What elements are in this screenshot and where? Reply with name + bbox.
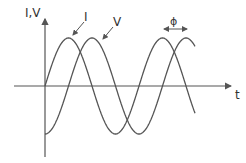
current-leader-arrow xyxy=(73,22,84,35)
voltage-label: V xyxy=(113,15,122,29)
y-axis-label: I,V xyxy=(25,6,41,20)
phase-label: ϕ xyxy=(170,15,177,28)
voltage-leader-arrow xyxy=(103,27,113,39)
current-label: I xyxy=(84,10,88,24)
diagram-canvas: I,V t I V ϕ xyxy=(0,0,246,163)
phase-diagram: I,V t I V ϕ xyxy=(0,0,246,163)
x-axis-label: t xyxy=(235,88,240,102)
